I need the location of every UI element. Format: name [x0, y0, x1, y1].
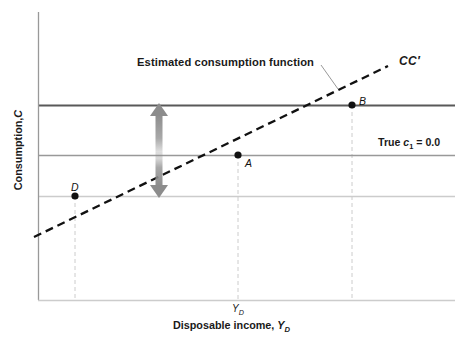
- y-axis-title-text: Consumption,: [12, 118, 24, 191]
- x-axis-title-subscript: D: [285, 325, 290, 334]
- point-label-d: D: [71, 181, 79, 193]
- vertical-gridlines: [75, 105, 352, 300]
- x-tick-symbol: Y: [232, 303, 239, 314]
- point-label-a: A: [245, 157, 252, 169]
- gap-double-arrow: [150, 103, 168, 198]
- consumption-function-chart: Estimated consumption function CC′ True …: [0, 0, 463, 337]
- x-tick-subscript: D: [239, 308, 244, 317]
- annotation-leader-line: [321, 65, 338, 89]
- estimated-consumption-function-label: Estimated consumption function: [137, 56, 314, 68]
- chart-canvas: [0, 0, 463, 337]
- true-slope-label: True c1 = 0.0: [378, 136, 440, 151]
- data-point-a: [234, 151, 241, 158]
- x-axis-title-symbol: Y: [277, 319, 284, 331]
- true-slope-value: = 0.0: [413, 136, 440, 148]
- x-axis-title-text: Disposable income,: [173, 319, 274, 331]
- cc-prime-curve-label: CC′: [399, 54, 420, 68]
- true-slope-prefix: True: [378, 136, 403, 148]
- x-axis-title: Disposable income, YD: [0, 319, 463, 334]
- data-point-d: [71, 192, 78, 199]
- data-point-b: [348, 101, 355, 108]
- x-tick-label-yd: YD: [218, 303, 258, 317]
- y-axis-title: Consumption,C: [12, 90, 24, 210]
- estimated-consumption-line: [34, 66, 388, 237]
- point-label-b: B: [359, 95, 366, 107]
- y-axis-title-symbol: C: [12, 110, 24, 118]
